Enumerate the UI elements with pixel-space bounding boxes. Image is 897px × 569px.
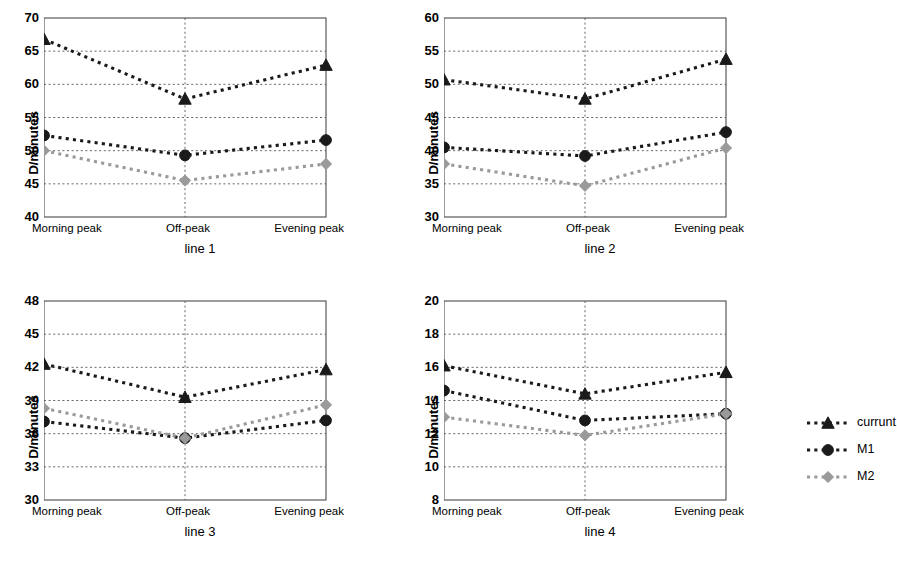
data-point-M2 — [320, 399, 331, 410]
y-tick-label: 48 — [1, 294, 39, 307]
legend-marker-diamond-icon — [806, 469, 850, 483]
x-tick-label: Off-peak — [566, 222, 610, 234]
x-tick-label: Off-peak — [166, 505, 210, 517]
y-tick-label: 40 — [401, 144, 439, 157]
data-point-currunt — [320, 363, 332, 374]
data-point-currunt — [444, 359, 450, 370]
data-point-M1 — [321, 135, 332, 146]
chart-svg-4 — [444, 294, 740, 507]
x-tick-labels-line-2: Morning peakOff-peakEvening peak — [432, 222, 744, 234]
y-tick-label: 55 — [1, 111, 39, 124]
y-tick-label: 36 — [1, 427, 39, 440]
y-tick-label: 33 — [1, 460, 39, 473]
legend-item-M2: M2 — [806, 462, 896, 489]
data-point-M2 — [444, 158, 450, 169]
legend-label: M2 — [857, 469, 874, 483]
chart-svg-1 — [44, 11, 340, 224]
data-point-M2 — [44, 403, 50, 414]
chart-title-line-3: line 3 — [0, 524, 400, 539]
chart-title-line-1: line 1 — [0, 241, 400, 256]
plot-area-line-3: 30333639424548 — [44, 301, 326, 500]
y-tick-label: 35 — [401, 177, 439, 190]
data-point-M1 — [44, 416, 49, 427]
y-tick-label: 12 — [401, 427, 439, 440]
y-tick-label: 45 — [1, 327, 39, 340]
plot-area-line-4: 8101214161820 — [444, 301, 726, 500]
x-tick-label: Evening peak — [274, 222, 344, 234]
y-tick-label: 45 — [401, 111, 439, 124]
x-tick-label: Evening peak — [274, 505, 344, 517]
legend-item-M1: M1 — [806, 435, 896, 462]
y-tick-label: 42 — [1, 360, 39, 373]
data-point-M2 — [579, 180, 590, 191]
chart-panel-line-1: D/minutes 40455055606570 Morning peakOff… — [0, 0, 400, 285]
data-point-M2 — [720, 142, 731, 153]
data-point-currunt — [44, 358, 50, 369]
chart-panel-line-2: D/minutes 30354045505560 Morning peakOff… — [400, 0, 800, 285]
data-point-M1 — [580, 415, 591, 426]
y-tick-label: 45 — [1, 177, 39, 190]
data-point-M2 — [579, 430, 590, 441]
x-tick-label: Morning peak — [32, 505, 102, 517]
x-tick-label: Off-peak — [566, 505, 610, 517]
chart-svg-2 — [444, 11, 740, 224]
chart-title-line-4: line 4 — [400, 524, 800, 539]
legend: curruntM1M2 — [806, 408, 896, 489]
chart-panel-line-4: D/minutes 8101214161820 Morning peakOff-… — [400, 285, 800, 569]
data-point-M1 — [180, 150, 191, 161]
data-point-currunt — [720, 366, 732, 377]
legend-item-currunt: currunt — [806, 408, 896, 435]
y-tick-label: 10 — [401, 460, 439, 473]
x-tick-label: Morning peak — [32, 222, 102, 234]
data-point-currunt — [720, 53, 732, 64]
chart-title-line-2: line 2 — [400, 241, 800, 256]
y-tick-label: 60 — [401, 11, 439, 24]
data-point-M1 — [580, 151, 591, 162]
x-tick-label: Evening peak — [674, 222, 744, 234]
y-tick-label: 14 — [401, 394, 439, 407]
legend-label: M1 — [857, 442, 874, 456]
y-tick-label: 39 — [1, 394, 39, 407]
y-tick-label: 50 — [401, 77, 439, 90]
chart-grid: D/minutes 40455055606570 Morning peakOff… — [0, 0, 897, 569]
data-point-M2 — [320, 158, 331, 169]
y-tick-label: 55 — [401, 44, 439, 57]
y-tick-label: 65 — [1, 44, 39, 57]
data-point-M1 — [321, 415, 332, 426]
y-tick-label: 20 — [401, 294, 439, 307]
x-tick-labels-line-1: Morning peakOff-peakEvening peak — [32, 222, 344, 234]
y-tick-label: 70 — [1, 11, 39, 24]
data-point-M2 — [179, 175, 190, 186]
x-tick-label: Morning peak — [432, 222, 502, 234]
x-tick-labels-line-4: Morning peakOff-peakEvening peak — [432, 505, 744, 517]
data-point-M1 — [44, 130, 49, 141]
legend-marker-circle-icon — [806, 442, 850, 456]
data-point-currunt — [444, 73, 450, 84]
data-point-M2 — [444, 411, 450, 422]
x-tick-labels-line-3: Morning peakOff-peakEvening peak — [32, 505, 344, 517]
plot-area-line-1: 40455055606570 — [44, 18, 326, 217]
x-tick-label: Off-peak — [166, 222, 210, 234]
data-point-currunt — [44, 33, 50, 44]
data-point-M1 — [444, 142, 449, 153]
x-tick-label: Morning peak — [432, 505, 502, 517]
x-tick-label: Evening peak — [674, 505, 744, 517]
y-tick-label: 16 — [401, 360, 439, 373]
y-tick-label: 60 — [1, 77, 39, 90]
legend-marker-triangle-icon — [806, 415, 850, 429]
data-point-M1 — [721, 127, 732, 138]
data-point-M1 — [444, 385, 449, 396]
y-tick-label: 50 — [1, 144, 39, 157]
data-point-M2 — [44, 145, 50, 156]
chart-svg-3 — [44, 294, 340, 507]
chart-panel-line-3: D/minutes 30333639424548 Morning peakOff… — [0, 285, 400, 569]
plot-area-line-2: 30354045505560 — [444, 18, 726, 217]
y-tick-label: 18 — [401, 327, 439, 340]
legend-label: currunt — [857, 415, 896, 429]
